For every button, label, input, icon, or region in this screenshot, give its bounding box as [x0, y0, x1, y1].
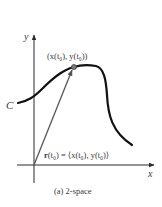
curve-point-dot: [71, 64, 76, 69]
y-axis-label: y: [23, 31, 29, 42]
x-axis-label: x: [147, 168, 153, 179]
vector-label: r(t₀) = ⟨x(t₀), y(t₀)⟩: [44, 150, 109, 160]
figure-caption: (a) 2-space: [54, 186, 92, 196]
point-label: (x(t₀), y(t₀)): [47, 51, 88, 61]
vector-function-diagram: y x C (x(t₀), y(t₀)) r(t₀) = ⟨x(t₀), y(t…: [0, 0, 162, 207]
vector-label-eq: = ⟨x(t₀), y(t₀)⟩: [59, 150, 109, 160]
vector-label-arg: (t₀): [48, 150, 59, 160]
curve-c: [18, 65, 132, 145]
curve-label: C: [6, 99, 14, 111]
